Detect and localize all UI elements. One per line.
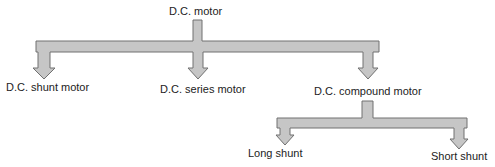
root-connector (33, 20, 379, 79)
node-dc-motor: D.C. motor (169, 5, 222, 18)
node-dc-compound-motor: D.C. compound motor (314, 85, 422, 98)
node-dc-series-motor: D.C. series motor (160, 83, 246, 96)
compound-connector (276, 101, 468, 149)
node-dc-shunt-motor: D.C. shunt motor (6, 81, 89, 94)
node-short-shunt: Short shunt (431, 150, 487, 163)
node-long-shunt: Long shunt (248, 147, 302, 160)
